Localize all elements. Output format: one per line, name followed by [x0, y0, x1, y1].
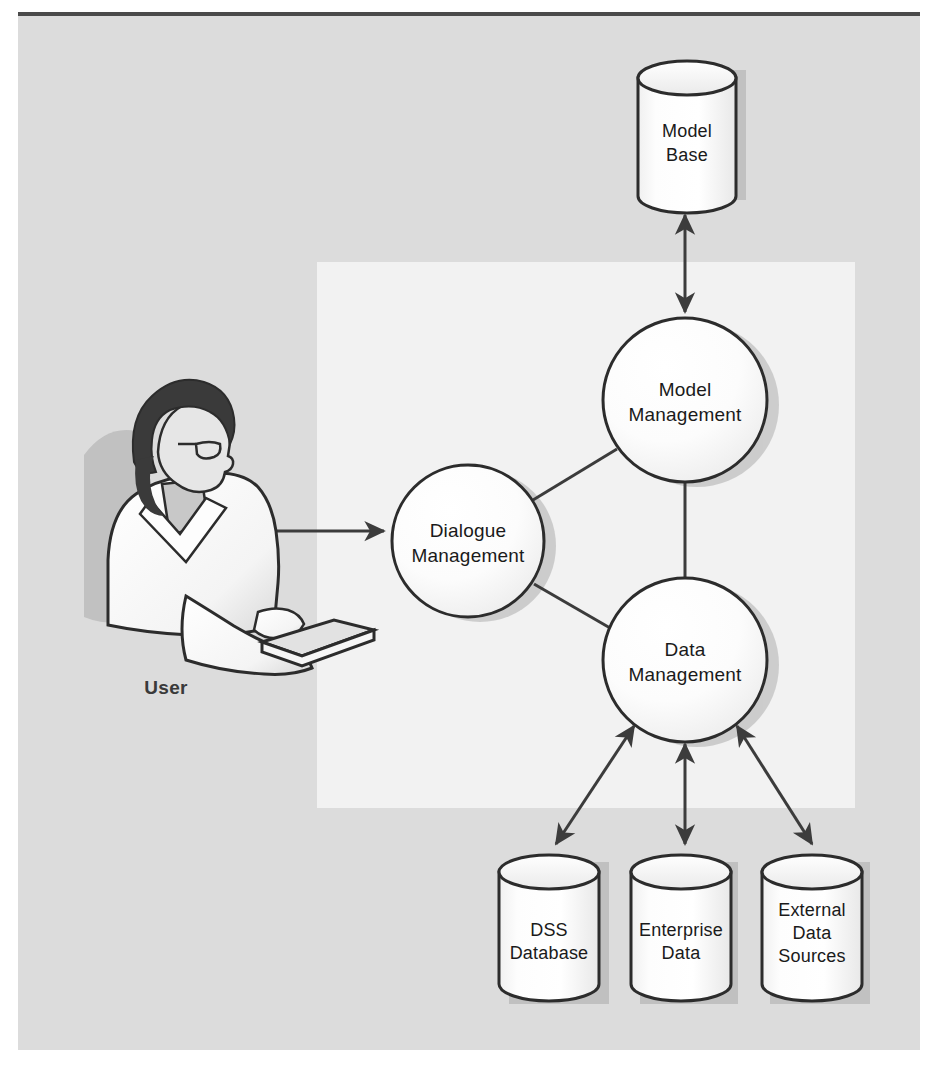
external-data-sources-cylinder-top: [762, 855, 862, 889]
model-base-label-line1: Model: [662, 121, 712, 141]
enterprise-data-label-line2: Data: [662, 943, 702, 963]
store-enterprise-data[interactable]: Enterprise Data: [631, 855, 731, 1001]
model-management-circle: [603, 318, 767, 482]
enterprise-data-cylinder-top: [631, 855, 731, 889]
model-base-cylinder-top: [638, 61, 736, 95]
model-management-label-line2: Management: [629, 404, 742, 425]
external-data-sources-label-line3: Sources: [778, 946, 845, 966]
store-dss-database[interactable]: DSS Database: [499, 855, 599, 1001]
dss-database-label-line2: Database: [510, 943, 589, 963]
external-data-sources-label-line2: Data: [793, 923, 833, 943]
dss-database-label-line1: DSS: [530, 920, 568, 940]
dialogue-management-label-line2: Management: [412, 545, 525, 566]
person-at-keyboard-icon: [108, 380, 374, 675]
dialogue-management-circle: [392, 465, 544, 617]
external-data-sources-label-line1: External: [778, 900, 846, 920]
dss-database-cylinder-top: [499, 855, 599, 889]
component-data-management[interactable]: Data Management: [603, 578, 767, 742]
model-base-label-line2: Base: [666, 145, 708, 165]
dialogue-management-label-line1: Dialogue: [430, 520, 507, 541]
data-management-label-line2: Management: [629, 664, 742, 685]
arrow-data-management-to-dss-database: [556, 726, 634, 844]
component-model-management[interactable]: Model Management: [603, 318, 767, 482]
user-label: User: [144, 677, 188, 698]
store-model-base[interactable]: Model Base: [638, 61, 736, 213]
data-management-label-line1: Data: [665, 639, 706, 660]
diagram-figure: Model Base Model Management Dialogue Man…: [0, 0, 938, 1067]
arrow-data-management-to-external-data-sources: [737, 726, 812, 844]
data-management-circle: [603, 578, 767, 742]
enterprise-data-label-line1: Enterprise: [639, 920, 723, 940]
connector-dialogue-data: [534, 584, 617, 632]
connector-dialogue-model: [533, 449, 617, 500]
component-dialogue-management[interactable]: Dialogue Management: [392, 465, 544, 617]
store-external-data-sources[interactable]: External Data Sources: [762, 855, 862, 1001]
model-management-label-line1: Model: [659, 379, 712, 400]
diagram-canvas: Model Base Model Management Dialogue Man…: [0, 0, 938, 1067]
